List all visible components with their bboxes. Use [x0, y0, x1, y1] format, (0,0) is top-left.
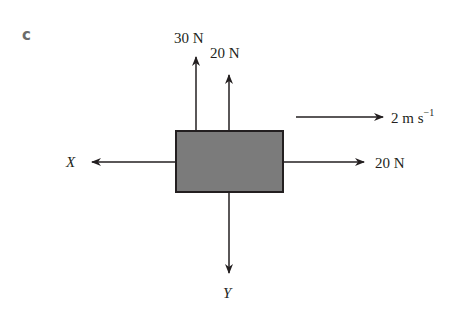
velocity-exponent: −1: [424, 107, 435, 118]
force-diagram: 30 N 20 N 20 N X Y 2 m s−1: [0, 0, 452, 316]
label-x: X: [65, 154, 76, 170]
label-y: Y: [223, 285, 233, 301]
label-30n: 30 N: [174, 30, 204, 46]
label-20n-right: 20 N: [375, 155, 405, 171]
block: [176, 131, 283, 192]
velocity-value: 2 m s: [391, 110, 424, 126]
label-velocity: 2 m s−1: [391, 107, 434, 126]
label-20n-up: 20 N: [210, 45, 240, 61]
